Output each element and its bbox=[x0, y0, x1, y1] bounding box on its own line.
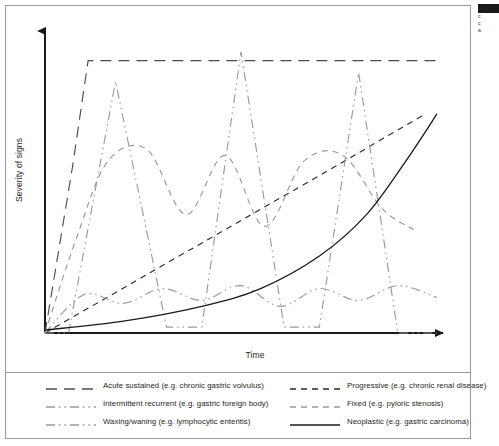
legend-item-label: Waxing/waning (e.g. lymphocytic enteriti… bbox=[103, 417, 250, 426]
legend-box: Acute sustained (e.g. chronic gastric vo… bbox=[5, 372, 471, 439]
legend-item-label: Progressive (e.g. chronic renal disease) bbox=[347, 381, 486, 390]
legend-item[interactable]: Fixed (e.g. pyloric stenosis) bbox=[289, 398, 486, 408]
legend-item[interactable]: Acute sustained (e.g. chronic gastric vo… bbox=[45, 380, 289, 390]
legend-item-label: Neoplastic (e.g. gastric carcinoma) bbox=[347, 417, 469, 426]
series-line-4 bbox=[45, 145, 413, 333]
legend-grid: Acute sustained (e.g. chronic gastric vo… bbox=[45, 376, 465, 430]
plot-area: Severity of signs Time bbox=[5, 5, 471, 365]
legend-item[interactable]: Waxing/waning (e.g. lymphocytic enteriti… bbox=[45, 416, 289, 426]
legend-line-swatch bbox=[45, 398, 97, 408]
legend-line-swatch bbox=[45, 380, 97, 390]
series-line-2 bbox=[45, 114, 425, 333]
legend-line-swatch bbox=[289, 398, 341, 408]
series-line-1 bbox=[45, 61, 437, 333]
figure-panel: c c a Severity of signs Time bbox=[0, 0, 499, 446]
legend-item-label: Acute sustained (e.g. chronic gastric vo… bbox=[103, 381, 264, 390]
x-axis-title: Time bbox=[185, 350, 325, 360]
y-axis-title: Severity of signs bbox=[14, 122, 24, 218]
legend-top-divider bbox=[5, 372, 471, 373]
series-line-3 bbox=[45, 52, 437, 333]
series-line-5 bbox=[45, 286, 437, 333]
legend-item-label: Intermittent recurrent (e.g. gastric for… bbox=[103, 399, 268, 408]
legend-item-label: Fixed (e.g. pyloric stenosis) bbox=[347, 399, 443, 408]
legend-item[interactable]: Progressive (e.g. chronic renal disease) bbox=[289, 380, 486, 390]
legend-line-swatch bbox=[289, 380, 341, 390]
caption-line-2: c bbox=[478, 20, 499, 27]
side-caption-strip: c c a bbox=[478, 4, 499, 56]
legend-item[interactable]: Intermittent recurrent (e.g. gastric for… bbox=[45, 398, 289, 408]
caption-line-3: a bbox=[478, 27, 499, 34]
series-layer bbox=[45, 52, 437, 333]
legend-line-swatch bbox=[289, 416, 341, 426]
axis-lines bbox=[45, 31, 443, 333]
caption-line-1: c bbox=[478, 13, 499, 20]
legend-line-swatch bbox=[45, 416, 97, 426]
caption-rule bbox=[478, 4, 499, 13]
legend-item[interactable]: Neoplastic (e.g. gastric carcinoma) bbox=[289, 416, 486, 426]
chart-svg bbox=[5, 5, 471, 365]
